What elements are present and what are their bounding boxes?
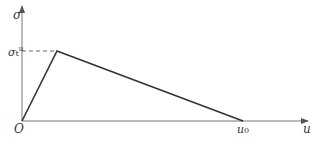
y-axis-label: σ: [13, 9, 21, 21]
x-axis-label: u: [303, 123, 311, 135]
peak-stress-label: σtu: [8, 46, 23, 58]
softening-curve: [22, 51, 243, 121]
u0-label: u0: [237, 124, 249, 135]
stress-displacement-diagram: [0, 0, 318, 141]
origin-label: O: [14, 123, 24, 135]
